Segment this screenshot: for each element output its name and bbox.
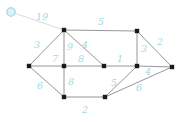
edge-weight-label: 5: [98, 17, 104, 27]
graph-node: [102, 64, 106, 68]
graph-edge: [137, 66, 172, 67]
edge-weight-label: 7: [52, 54, 58, 64]
weighted-graph-figure: 19537948132682546: [0, 0, 186, 122]
edge-weight-label: 8: [78, 54, 84, 64]
graph-edge: [105, 66, 137, 97]
edge-weight-label: 8: [68, 77, 74, 87]
graph-edge: [29, 66, 64, 97]
graph-node-highlighted: [7, 8, 15, 16]
edge-weight-label: 9: [67, 42, 73, 52]
edge-weight-label: 19: [36, 12, 48, 22]
graph-node: [170, 65, 174, 69]
edge-weight-label: 2: [157, 37, 163, 47]
graph-node: [62, 95, 66, 99]
graph-edge: [64, 30, 137, 31]
edge-weight-label: 3: [141, 44, 147, 54]
edge-weight-label: 3: [34, 40, 40, 50]
edge-weight-label: 4: [145, 67, 151, 77]
edge-weight-label: 6: [136, 83, 142, 93]
graph-node: [135, 64, 139, 68]
graph-node: [103, 95, 107, 99]
edge-weight-label: 1: [117, 54, 123, 64]
edge-weight-label: 6: [37, 81, 43, 91]
edge-weight-label: 4: [82, 40, 88, 50]
graph-node: [62, 28, 66, 32]
graph-node: [27, 64, 31, 68]
edge-weight-label: 2: [82, 105, 88, 115]
graph-node: [62, 64, 66, 68]
graph-canvas: [0, 0, 186, 122]
edges-group: [11, 12, 172, 97]
graph-node: [135, 29, 139, 33]
edge-weight-label: 5: [111, 78, 117, 88]
